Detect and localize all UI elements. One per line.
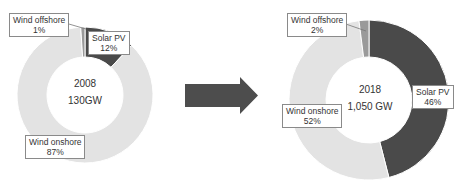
label-2008-wind-onshore: Wind onshore 87%: [25, 135, 85, 159]
center-total: 130GW: [55, 95, 115, 106]
label-value: 1%: [13, 25, 65, 35]
label-2018-wind-onshore: Wind onshore 52%: [282, 104, 342, 128]
right-arrow-icon: [185, 77, 258, 114]
label-2008-wind-offshore: Wind offshore 1%: [9, 13, 69, 37]
center-2008: 2008 130GW: [55, 78, 115, 106]
label-name: Wind offshore: [13, 15, 65, 25]
label-2018-solar-pv: Solar PV 46%: [412, 85, 454, 109]
center-2018: 2018 1,050 GW: [335, 84, 405, 112]
center-year: 2018: [335, 84, 405, 95]
label-value: 46%: [416, 97, 450, 107]
center-year: 2008: [55, 78, 115, 89]
label-value: 52%: [286, 116, 338, 126]
label-name: Wind onshore: [29, 137, 81, 147]
label-name: Wind offshore: [291, 15, 343, 25]
label-2018-wind-offshore: Wind offshore 2%: [287, 13, 347, 37]
center-total: 1,050 GW: [335, 101, 405, 112]
label-2008-solar-pv: Solar PV 12%: [88, 31, 130, 55]
label-name: Solar PV: [92, 33, 126, 43]
label-name: Wind onshore: [286, 106, 338, 116]
label-value: 2%: [291, 25, 343, 35]
label-value: 87%: [29, 147, 81, 157]
label-value: 12%: [92, 43, 126, 53]
label-name: Solar PV: [416, 87, 450, 97]
